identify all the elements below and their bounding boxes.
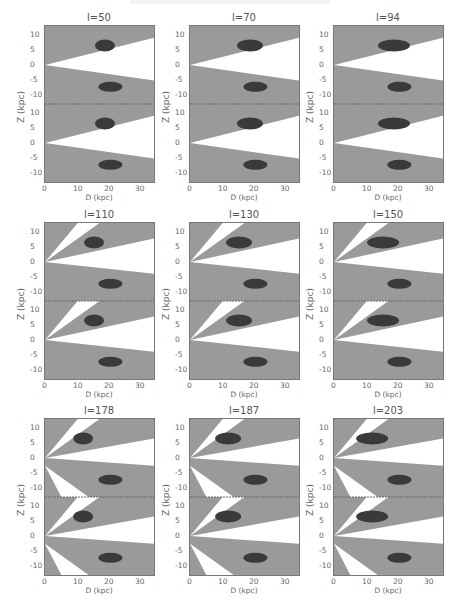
y-tick-label: -5: [319, 75, 326, 84]
x-tick-label: 10: [218, 381, 228, 390]
y-tick-label: -5: [319, 546, 326, 555]
x-tick-label: 0: [331, 577, 336, 586]
y-tick-label: -10: [30, 365, 42, 374]
y-tick-label: 0: [319, 453, 324, 462]
y-tick-label: 0: [319, 257, 324, 266]
x-tick-label: 20: [249, 381, 259, 390]
panel-title: l=187: [189, 405, 299, 416]
y-tick-label: 10: [175, 501, 185, 510]
x-axis-label: D (kpc): [189, 390, 299, 399]
y-tick-label: 0: [30, 60, 35, 69]
x-axis-label: D (kpc): [333, 586, 443, 595]
y-tick-label: -10: [30, 561, 42, 570]
x-tick-label: 0: [331, 381, 336, 390]
x-axis-label: D (kpc): [333, 193, 443, 202]
y-tick-label: -10: [319, 90, 331, 99]
y-tick-label: 10: [175, 108, 185, 117]
y-tick-label: -10: [30, 287, 42, 296]
heatmap-panel: [44, 25, 155, 183]
y-tick-label: 10: [175, 30, 185, 39]
x-tick-label: 20: [249, 184, 259, 193]
y-tick-label: 5: [319, 242, 324, 251]
y-tick-label: -5: [175, 153, 182, 162]
y-tick-label: 5: [319, 123, 324, 132]
heatmap-panel: [333, 25, 444, 183]
x-tick-label: 30: [135, 577, 145, 586]
x-tick-label: 0: [42, 381, 47, 390]
y-tick-label: 10: [30, 30, 40, 39]
y-axis-label: Z (kpc): [161, 484, 171, 516]
y-axis-label: Z (kpc): [161, 288, 171, 320]
panel-title: l=130: [189, 209, 299, 220]
x-tick-label: 20: [249, 577, 259, 586]
x-tick-label: 10: [362, 577, 372, 586]
y-tick-label: 0: [319, 531, 324, 540]
x-tick-label: 30: [424, 184, 434, 193]
y-tick-label: 5: [319, 438, 324, 447]
y-tick-label: -5: [319, 350, 326, 359]
x-tick-label: 10: [362, 381, 372, 390]
x-tick-label: 0: [42, 184, 47, 193]
y-tick-label: -10: [30, 90, 42, 99]
panel-title: l=50: [44, 12, 154, 23]
y-tick-label: -5: [175, 272, 182, 281]
y-tick-label: 0: [30, 138, 35, 147]
x-tick-label: 20: [104, 184, 114, 193]
y-tick-label: 0: [30, 453, 35, 462]
y-tick-label: -10: [319, 168, 331, 177]
y-tick-label: 10: [30, 501, 40, 510]
x-axis-label: D (kpc): [44, 390, 154, 399]
y-tick-label: -10: [30, 483, 42, 492]
y-axis-label: Z (kpc): [161, 91, 171, 123]
y-tick-label: 10: [319, 108, 329, 117]
x-tick-label: 30: [280, 184, 290, 193]
y-tick-label: 0: [30, 335, 35, 344]
y-tick-label: 10: [175, 305, 185, 314]
y-tick-label: 10: [30, 423, 40, 432]
y-tick-label: 10: [319, 501, 329, 510]
y-tick-label: -5: [319, 468, 326, 477]
y-tick-label: -5: [30, 75, 37, 84]
x-tick-label: 20: [104, 381, 114, 390]
x-tick-label: 10: [73, 577, 83, 586]
y-tick-label: 5: [175, 320, 180, 329]
y-tick-label: 0: [175, 531, 180, 540]
x-tick-label: 30: [135, 184, 145, 193]
y-tick-label: 5: [175, 45, 180, 54]
x-tick-label: 20: [393, 381, 403, 390]
y-tick-label: -5: [30, 272, 37, 281]
y-tick-label: -5: [319, 272, 326, 281]
heatmap-panel: [44, 418, 155, 576]
y-tick-label: -10: [319, 365, 331, 374]
x-tick-label: 10: [218, 184, 228, 193]
x-tick-label: 0: [187, 381, 192, 390]
heatmap-panel: [189, 25, 300, 183]
y-axis-label: Z (kpc): [305, 288, 315, 320]
y-axis-label: Z (kpc): [16, 484, 26, 516]
y-tick-label: -10: [30, 168, 42, 177]
y-tick-label: -10: [319, 561, 331, 570]
y-tick-label: -5: [175, 75, 182, 84]
x-tick-label: 20: [393, 184, 403, 193]
y-tick-label: 0: [175, 335, 180, 344]
y-tick-label: 10: [175, 227, 185, 236]
y-tick-label: 10: [30, 305, 40, 314]
y-tick-label: -10: [175, 287, 187, 296]
x-axis-label: D (kpc): [189, 586, 299, 595]
panel-title: l=110: [44, 209, 154, 220]
panel-title: l=150: [333, 209, 443, 220]
y-tick-label: -5: [319, 153, 326, 162]
heatmap-panel: [333, 222, 444, 380]
x-tick-label: 0: [331, 184, 336, 193]
y-tick-label: -5: [175, 350, 182, 359]
y-tick-label: 0: [175, 138, 180, 147]
y-tick-label: -10: [319, 287, 331, 296]
y-tick-label: 10: [30, 227, 40, 236]
y-tick-label: 5: [175, 123, 180, 132]
y-tick-label: 5: [30, 242, 35, 251]
y-tick-label: 10: [319, 305, 329, 314]
x-tick-label: 30: [135, 381, 145, 390]
y-tick-label: 5: [319, 45, 324, 54]
panel-title: l=70: [189, 12, 299, 23]
y-axis-label: Z (kpc): [305, 484, 315, 516]
